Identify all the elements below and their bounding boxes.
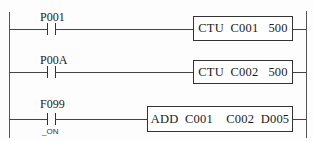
contact-label: F099 — [40, 98, 65, 110]
instruction-box[interactable]: CTU C002 500 — [193, 60, 293, 84]
rung-1-wire-left — [9, 29, 47, 30]
rung-1-wire-mid — [55, 29, 193, 30]
rung-2-wire-mid — [55, 72, 193, 73]
right-power-rail — [306, 11, 307, 138]
rung-3-wire-right — [293, 119, 306, 120]
contact-icon-left-bar — [47, 23, 48, 35]
contact-icon-left-bar — [47, 113, 48, 125]
contact-label: P001 — [40, 11, 65, 23]
instruction-box[interactable]: ADD C001 C002 D005 — [147, 106, 293, 132]
rung-2-wire-left — [9, 72, 47, 73]
rung-3-wire-mid — [55, 119, 147, 120]
contact-label: P00A — [40, 54, 67, 66]
rung-1-wire-right — [293, 29, 306, 30]
rung-3-wire-left — [9, 119, 47, 120]
contact-sublabel: _ON — [42, 128, 58, 136]
rung-2-wire-right — [293, 72, 306, 73]
instruction-box[interactable]: CTU C001 500 — [193, 16, 293, 41]
contact-icon-left-bar — [47, 66, 48, 78]
ladder-diagram: P001 CTU C001 500 P00A CTU C002 500 F099… — [0, 0, 313, 141]
